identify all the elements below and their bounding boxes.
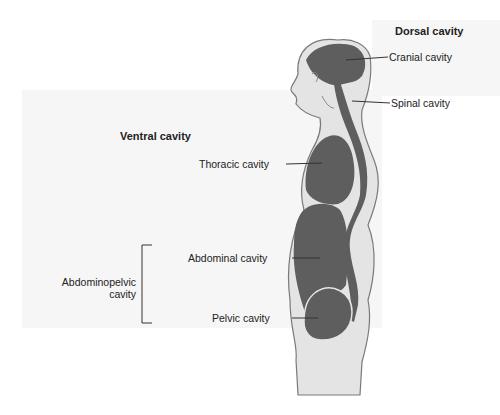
abdominopelvic-bracket <box>142 245 152 323</box>
dorsal-cavity-title: Dorsal cavity <box>395 25 463 37</box>
ventral-cavity-title: Ventral cavity <box>120 130 191 142</box>
thoracic-cavity-shape <box>306 135 355 204</box>
pelvic-cavity-shape <box>304 288 352 340</box>
abdominal-cavity-label: Abdominal cavity <box>188 252 267 264</box>
cranial-cavity-label: Cranial cavity <box>389 51 452 63</box>
abdominopelvic-label-line2: cavity <box>56 288 136 300</box>
thoracic-cavity-label: Thoracic cavity <box>199 158 269 170</box>
spinal-cavity-label: Spinal cavity <box>391 97 450 109</box>
body-cavities-diagram: Dorsal cavity Cranial cavity Spinal cavi… <box>0 0 500 415</box>
abdominopelvic-label-line1: Abdominopelvic <box>56 276 136 288</box>
pelvic-cavity-label: Pelvic cavity <box>212 312 270 324</box>
abdominopelvic-cavity-label: Abdominopelvic cavity <box>56 276 136 300</box>
